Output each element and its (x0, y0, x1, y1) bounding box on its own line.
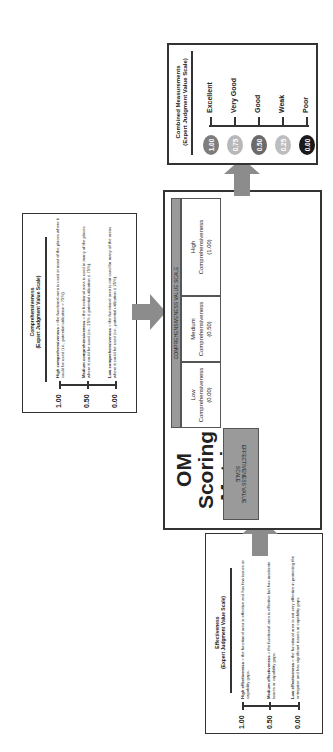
comprehensiveness-value-high: 1.00 (55, 394, 62, 408)
matrix-grid (179, 200, 314, 430)
effectiveness-tick-high (242, 702, 244, 710)
combined-tick-excellent (210, 117, 212, 127)
combined-label-excellent: Excellent (206, 82, 213, 113)
combined-value-excellent: 1.00 (203, 135, 219, 155)
comprehensiveness-value-medium: 0.50 (83, 394, 90, 408)
comprehensiveness-desc-low: Low comprehensiveness = the functional a… (107, 218, 117, 378)
comprehensiveness-desc-high: High comprehensiveness = the functional … (55, 218, 65, 378)
comprehensiveness-tick-medium (87, 381, 89, 389)
combined-value-poor: 0.00 (299, 135, 315, 155)
effectiveness-scale-box: Effectiveness (Expert Judgment Value Sca… (205, 533, 323, 734)
effectiveness-value-low: 0.00 (294, 715, 301, 729)
combined-label-poor: Poor (302, 97, 309, 113)
comprehensiveness-desc-medium: Medium comprehensiveness = the functiona… (81, 218, 91, 378)
comprehensiveness-tick-high (59, 381, 61, 389)
effectiveness-desc-low: Low effectiveness = the functional area … (290, 549, 300, 699)
effectiveness-desc-high: High effectiveness = the functional area… (240, 549, 250, 699)
combined-tick-very-good (234, 117, 236, 127)
combined-label-weak: Weak (278, 95, 285, 113)
effectiveness-axis (242, 705, 300, 707)
combined-title-rule (191, 51, 193, 155)
combined-tick-poor (306, 117, 308, 127)
effectiveness-value-high: 1.00 (238, 715, 245, 729)
effectiveness-title-rule (230, 568, 232, 693)
effectiveness-title: Effectiveness (Expert Judgment Value Sca… (214, 532, 226, 733)
effectiveness-tick-medium (269, 702, 271, 710)
combined-tick-good (258, 117, 260, 127)
diagram-canvas: Effectiveness (Expert Judgment Value Sca… (0, 0, 333, 752)
effectiveness-value-medium: 0.50 (266, 715, 273, 729)
comprehensiveness-title-rule (45, 237, 47, 382)
combined-tick-weak (282, 117, 284, 127)
combined-measurements-box: Combined Measurements (Expert Judgment V… (167, 43, 318, 165)
combined-label-good: Good (254, 95, 261, 113)
effectiveness-desc-medium: Medium effectiveness = the functional ar… (266, 549, 276, 699)
effectiveness-tick-low (298, 702, 300, 710)
comprehensiveness-scale-box: Comprehensiveness (Expert Judgment Value… (22, 213, 137, 413)
combined-title: Combined Measurements (Expert Judgment V… (175, 41, 189, 163)
comprehensiveness-title: Comprehensiveness (Expert Judgment Value… (29, 212, 41, 412)
combined-value-good: 0.50 (251, 135, 267, 155)
effectiveness-value-scale-header: EFFECTIVENESS VALUE SCALE (223, 428, 259, 520)
combined-value-very-good: 0.75 (227, 135, 243, 155)
combined-value-weak: 0.25 (275, 135, 291, 155)
comprehensiveness-tick-low (115, 381, 117, 389)
combined-label-very-good: Very Good (230, 78, 237, 113)
comprehensiveness-value-low: 0.00 (111, 394, 118, 408)
